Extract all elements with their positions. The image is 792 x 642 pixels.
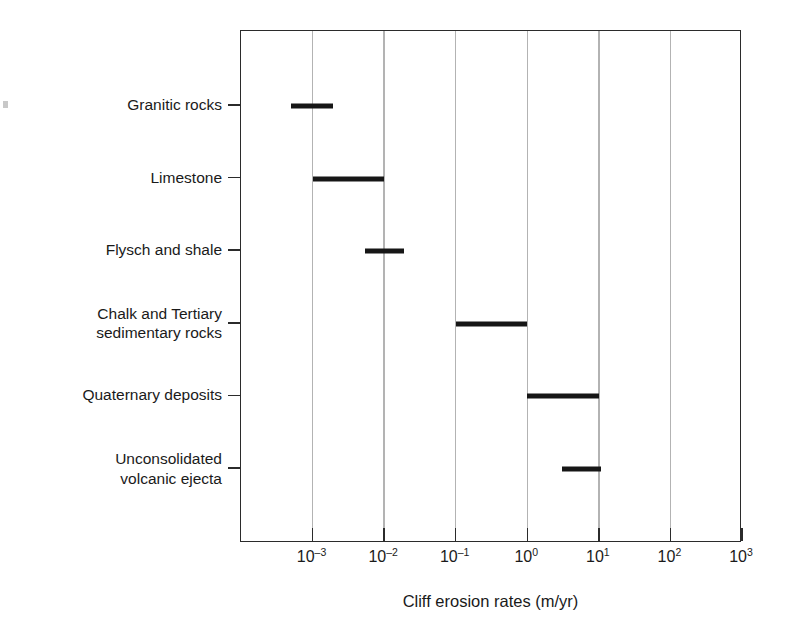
x-tick-label-3: 100 xyxy=(514,548,538,566)
x-tick-0 xyxy=(312,528,314,541)
range-bar-4 xyxy=(527,394,599,399)
plot-area xyxy=(240,30,741,542)
x-tick-5 xyxy=(670,528,672,541)
x-tick-label-mantissa-6: 10 xyxy=(729,548,747,565)
range-bar-2 xyxy=(365,249,404,254)
y-axis-label-3: Chalk and Tertiary sedimentary rocks xyxy=(0,303,222,342)
x-tick-label-2: 10–1 xyxy=(440,548,469,566)
x-tick-label-exponent-0: –3 xyxy=(315,546,327,558)
x-tick-label-mantissa-5: 10 xyxy=(658,548,676,565)
x-tick-label-mantissa-1: 10 xyxy=(368,548,386,565)
x-tick-3 xyxy=(527,528,529,541)
x-tick-label-5: 102 xyxy=(658,548,682,566)
x-tick-label-exponent-4: 1 xyxy=(604,546,610,558)
y-tick-4 xyxy=(228,395,240,397)
y-tick-3 xyxy=(228,322,240,324)
y-tick-0 xyxy=(228,104,240,106)
y-tick-1 xyxy=(228,177,240,179)
x-tick-1 xyxy=(383,528,385,541)
y-tick-2 xyxy=(228,249,240,251)
range-bar-0 xyxy=(291,104,332,109)
y-tick-5 xyxy=(228,467,240,469)
y-axis-label-4: Quaternary deposits xyxy=(0,386,222,406)
gridline-decade-2 xyxy=(455,31,457,541)
gridline-decade-4 xyxy=(598,31,600,541)
range-bar-5 xyxy=(562,467,600,472)
x-tick-label-mantissa-0: 10 xyxy=(297,548,315,565)
x-tick-2 xyxy=(455,528,457,541)
y-axis-label-5: Unconsolidated volcanic ejecta xyxy=(0,449,222,488)
range-bar-1 xyxy=(313,176,385,181)
gridline-decade-3 xyxy=(527,31,529,541)
x-tick-label-mantissa-2: 10 xyxy=(440,548,458,565)
x-tick-label-exponent-3: 0 xyxy=(532,546,538,558)
x-tick-label-4: 101 xyxy=(586,548,610,566)
y-axis-label-0: Granitic rocks xyxy=(0,95,222,115)
gridline-decade-5 xyxy=(670,31,672,541)
x-tick-label-0: 10–3 xyxy=(297,548,326,566)
y-axis-label-1: Limestone xyxy=(0,168,222,188)
x-tick-label-mantissa-3: 10 xyxy=(514,548,532,565)
x-tick-label-6: 103 xyxy=(729,548,753,566)
range-bar-3 xyxy=(456,321,528,326)
x-axis-title: Cliff erosion rates (m/yr) xyxy=(240,592,741,611)
x-tick-label-exponent-6: 3 xyxy=(747,546,753,558)
x-tick-6 xyxy=(741,528,743,541)
x-tick-label-exponent-2: –1 xyxy=(458,546,470,558)
gridline-decade-1 xyxy=(383,31,385,541)
x-tick-label-exponent-5: 2 xyxy=(675,546,681,558)
cliff-erosion-rates-chart: Granitic rocksLimestoneFlysch and shaleC… xyxy=(0,0,792,642)
x-tick-label-exponent-1: –2 xyxy=(386,546,398,558)
x-tick-4 xyxy=(598,528,600,541)
y-axis-label-2: Flysch and shale xyxy=(0,240,222,260)
x-tick-label-1: 10–2 xyxy=(368,548,397,566)
x-tick-label-mantissa-4: 10 xyxy=(586,548,604,565)
